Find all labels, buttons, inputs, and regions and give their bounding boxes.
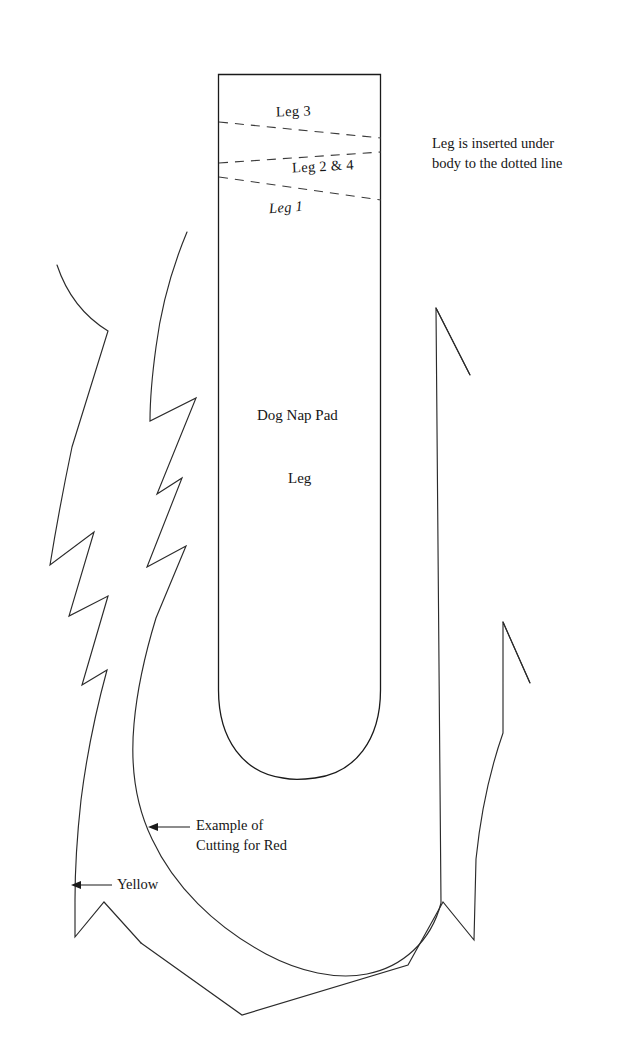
leg-3-dotted-line [219,122,381,138]
label-leg-3: Leg 3 [276,102,311,122]
arrow-yellow [71,881,112,889]
label-dog-nap-pad: Dog Nap Pad [257,405,338,425]
inner-red-cut-line-right-barb [436,308,470,375]
example-red-line-2: Cutting for Red [196,837,287,853]
label-yellow: Yellow [117,875,158,895]
label-insertion-note: Leg is inserted underbody to the dotted … [432,134,562,173]
label-leg: Leg [288,468,311,488]
insertion-note-line-2: body to the dotted line [432,155,562,171]
outer-yellow-cut-line-left [50,265,141,943]
insertion-note-line-1: Leg is inserted under [432,135,554,151]
outer-yellow-cut-line-right-barb [503,622,530,683]
label-leg-1: Leg 1 [268,197,303,219]
arrow-example-cutting-for-red [148,823,190,831]
example-red-line-1: Example of [196,817,263,833]
label-example-cutting-for-red: Example ofCutting for Red [196,816,287,855]
pattern-page: Leg 3 Leg 2 & 4 Leg 1 Leg is inserted un… [0,0,617,1051]
label-leg-2-and-4: Leg 2 & 4 [292,155,355,178]
inner-red-cut-line-left [133,232,470,976]
